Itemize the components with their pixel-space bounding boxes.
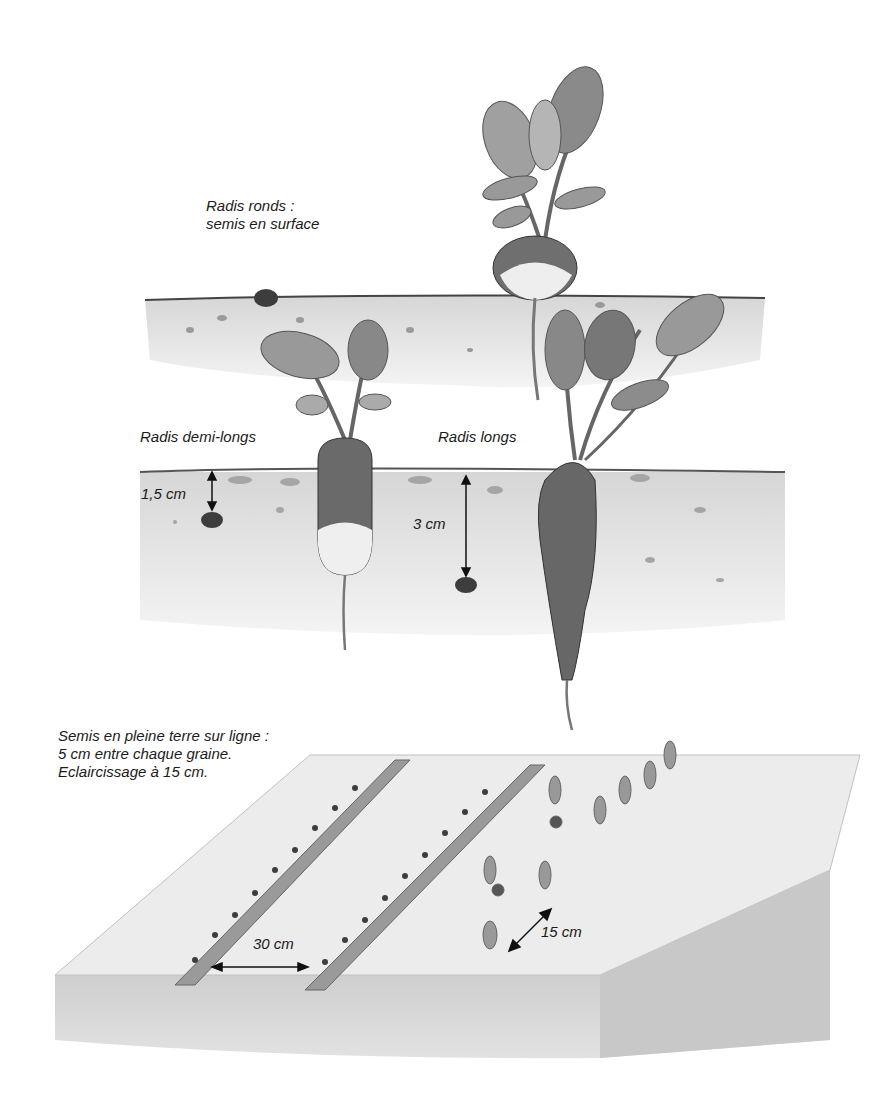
label-depth-half-long: 1,5 cm	[141, 485, 186, 503]
seed-long	[455, 577, 477, 593]
label-row-spacing: 30 cm	[253, 935, 294, 953]
seed-half-long	[201, 512, 223, 528]
illustration	[0, 0, 873, 1105]
label-thinning-spacing: 15 cm	[541, 923, 582, 941]
label-half-long-radish: Radis demi-longs	[140, 428, 256, 446]
label-round-radish-line2: semis en surface	[206, 215, 319, 233]
label-round-radish-line1: Radis ronds :	[206, 197, 319, 215]
seed-surface	[254, 289, 278, 307]
label-row-caption-line1: Semis en pleine terre sur ligne :	[58, 727, 269, 745]
label-long-radish: Radis longs	[438, 428, 516, 446]
label-row-caption-line3: Eclaircissage à 15 cm.	[58, 763, 269, 781]
label-row-caption-line2: 5 cm entre chaque graine.	[58, 745, 269, 763]
label-round-radish: Radis ronds : semis en surface	[206, 197, 319, 233]
label-row-caption: Semis en pleine terre sur ligne : 5 cm e…	[58, 727, 269, 781]
label-depth-long: 3 cm	[413, 515, 446, 533]
soil-slab	[55, 741, 860, 1058]
lower-soil-layer	[140, 469, 785, 636]
